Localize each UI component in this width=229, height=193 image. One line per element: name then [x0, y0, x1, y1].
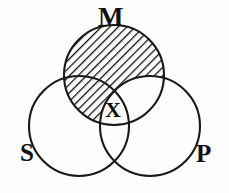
circle-label-p: P: [196, 141, 211, 166]
existential-x-mark: X: [105, 99, 121, 121]
circle-label-s: S: [20, 140, 34, 165]
circle-label-m: M: [98, 4, 123, 31]
venn-diagram: M S P X: [0, 0, 229, 193]
